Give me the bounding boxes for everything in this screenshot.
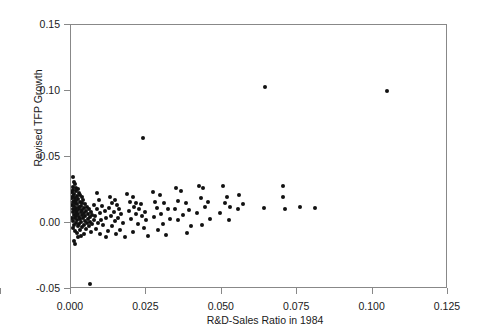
data-point <box>281 195 285 199</box>
data-point <box>106 229 110 233</box>
scatter-plot-figure: 0.15 0.10 0.05 0.00 -0.05 0.000 0.025 0.… <box>0 0 478 336</box>
data-point <box>236 207 240 211</box>
ytick-label-3: 0.00 <box>0 217 60 228</box>
data-point <box>162 201 166 205</box>
data-point <box>98 232 102 236</box>
data-point <box>146 234 150 238</box>
data-point <box>156 228 160 232</box>
data-point <box>107 206 111 210</box>
data-point <box>176 199 180 203</box>
data-point <box>113 219 117 223</box>
data-point <box>237 193 241 197</box>
data-point <box>140 214 144 218</box>
data-point <box>71 175 75 179</box>
data-point <box>298 205 302 209</box>
data-point <box>89 230 93 234</box>
data-point <box>98 211 102 215</box>
ytick-label-0: 0.15 <box>0 19 60 30</box>
data-point <box>159 212 163 216</box>
xtick-label-4: 0.100 <box>342 296 402 314</box>
data-point <box>114 232 118 236</box>
data-point <box>168 217 172 221</box>
data-point <box>221 184 225 188</box>
data-point <box>103 209 107 213</box>
data-point <box>218 211 222 215</box>
data-point <box>241 202 245 206</box>
xtick-label-2: 0.050 <box>191 296 251 314</box>
data-point <box>143 210 147 214</box>
data-point <box>208 217 212 221</box>
data-point <box>95 207 99 211</box>
ytick-label-4: -0.05 <box>0 283 60 294</box>
data-point <box>104 216 108 220</box>
data-point <box>262 206 266 210</box>
data-point <box>93 214 97 218</box>
data-point <box>127 209 131 213</box>
data-point <box>131 230 135 234</box>
data-point <box>132 205 136 209</box>
data-point <box>184 201 188 205</box>
data-point <box>201 186 205 190</box>
data-point <box>108 195 112 199</box>
xtick-label-3: 0.075 <box>266 296 326 314</box>
data-point <box>134 212 138 216</box>
data-point <box>176 218 180 222</box>
data-point <box>228 205 232 209</box>
data-point <box>142 226 146 230</box>
plot-area <box>70 24 447 288</box>
data-point <box>94 227 98 231</box>
data-point <box>161 222 165 226</box>
data-point <box>141 136 145 140</box>
data-point <box>189 224 193 228</box>
data-point <box>197 184 201 188</box>
data-point <box>166 207 170 211</box>
data-point <box>185 231 189 235</box>
data-point <box>179 189 183 193</box>
xtick-mark-1 <box>0 288 1 294</box>
xtick-mark-2 <box>221 288 222 294</box>
data-point <box>203 205 207 209</box>
data-point <box>283 207 287 211</box>
data-point <box>151 190 155 194</box>
data-point <box>263 85 267 89</box>
data-point <box>92 218 96 222</box>
xtick-mark-4 <box>372 288 373 294</box>
data-point <box>313 206 317 210</box>
data-point <box>88 282 92 286</box>
data-point <box>173 207 177 211</box>
data-point <box>96 221 100 225</box>
data-point <box>100 204 104 208</box>
data-point <box>200 223 204 227</box>
xtick-label-1: 0.025 <box>115 296 175 314</box>
xtick-label-0: 0.000 <box>40 296 100 314</box>
data-point <box>119 212 123 216</box>
xtick-mark-1b <box>145 288 146 294</box>
data-point <box>137 207 141 211</box>
data-point <box>128 200 132 204</box>
data-point <box>164 233 168 237</box>
data-point <box>144 218 148 222</box>
data-point <box>76 235 80 239</box>
data-point <box>110 201 114 205</box>
data-point <box>174 186 178 190</box>
data-point <box>225 195 229 199</box>
data-point <box>223 201 227 205</box>
data-point <box>129 217 133 221</box>
data-point <box>109 214 113 218</box>
data-point <box>117 207 121 211</box>
data-point <box>101 223 105 227</box>
y-axis-label: Revised TFP Growth <box>32 18 44 218</box>
data-point <box>84 227 88 231</box>
data-point <box>139 202 143 206</box>
xtick-label-5: 0.125 <box>417 296 477 314</box>
x-axis-label: R&D-Sales Ratio in 1984 <box>0 314 478 326</box>
xtick-mark-0 <box>70 288 71 294</box>
data-point <box>227 218 231 222</box>
data-point <box>155 206 159 210</box>
ytick-label-2: 0.05 <box>0 151 60 162</box>
data-point <box>281 184 285 188</box>
xtick-mark-5 <box>447 288 448 294</box>
data-point <box>152 215 156 219</box>
data-point <box>153 200 157 204</box>
data-point <box>131 195 135 199</box>
